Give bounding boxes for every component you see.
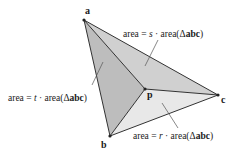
vertex-b-label: b: [101, 139, 107, 150]
vertex-c-label: c: [221, 94, 226, 105]
vertex-a-label: a: [85, 5, 90, 16]
barycentric-area-diagram: a b c p area = s · area(Δabc) area = t ·…: [0, 0, 233, 155]
vertex-p-label: p: [147, 89, 153, 100]
vertex-c-dot: [216, 93, 219, 96]
area-label-s: area = s · area(Δabc): [123, 29, 203, 40]
vertex-a-dot: [82, 18, 85, 21]
vertex-b-dot: [108, 134, 111, 137]
area-label-r: area = r · area(Δabc): [133, 131, 213, 142]
area-label-t: area = t · area(Δabc): [8, 93, 87, 104]
